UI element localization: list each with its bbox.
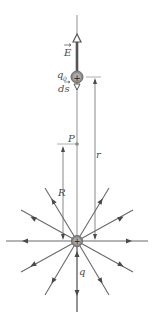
label-E: E	[63, 47, 72, 58]
arrow-icon	[117, 261, 125, 268]
arrow-icon	[75, 290, 80, 296]
arrow-icon	[126, 239, 132, 244]
arrow-icon	[49, 277, 56, 285]
field-vector-head-icon	[73, 34, 81, 42]
label-P: P	[67, 133, 75, 144]
arrow-icon	[97, 277, 104, 285]
arrow-icon	[29, 261, 37, 268]
field-diagram: + + E q 0 ds P R r q	[0, 0, 158, 322]
arrow-icon	[97, 197, 104, 205]
arrow-icon	[75, 251, 80, 257]
ds-vector-head-icon	[74, 84, 80, 90]
label-q0-sub: 0	[63, 75, 67, 82]
arrow-icon	[22, 239, 28, 244]
label-ds: ds	[58, 83, 70, 94]
label-q: q	[79, 266, 85, 277]
source-charge-sign: +	[74, 237, 81, 246]
label-r: r	[96, 149, 102, 160]
test-charge-sign: +	[73, 73, 81, 83]
arrow-icon	[49, 197, 56, 205]
label-R: R	[57, 187, 66, 198]
